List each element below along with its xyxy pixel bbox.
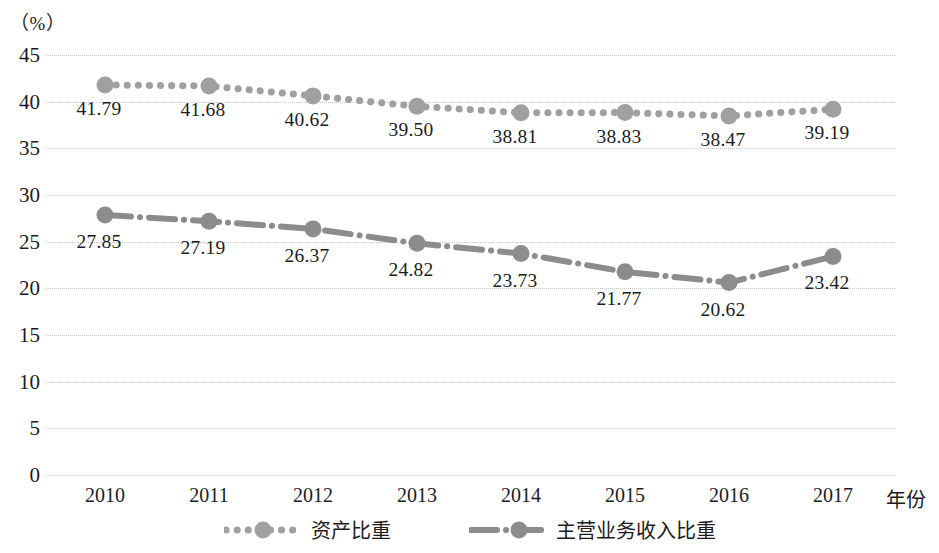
legend-swatch: [224, 520, 302, 540]
y-axis-tick: 25: [0, 229, 40, 254]
data-point-marker: [617, 263, 634, 280]
data-point-marker: [97, 207, 114, 224]
legend-item-2[interactable]: 主营业务收入比重: [469, 515, 716, 544]
data-point-marker: [201, 213, 218, 230]
data-label: 20.62: [701, 299, 746, 321]
data-point-marker: [721, 107, 738, 124]
data-label: 41.79: [77, 98, 122, 120]
data-point-marker: [825, 101, 842, 118]
data-label: 27.19: [181, 237, 226, 259]
y-axis-tick: 35: [0, 136, 40, 161]
x-axis-title: 年份: [886, 484, 926, 513]
data-point-marker: [513, 245, 530, 262]
y-axis-unit-label: （%）: [10, 8, 65, 35]
data-label: 38.83: [597, 126, 642, 148]
legend-item-1[interactable]: 资产比重: [224, 515, 391, 544]
chart-container: （%） 051015202530354045 41.7941.6840.6239…: [0, 0, 939, 553]
series-lines: [46, 55, 895, 475]
data-label: 24.82: [389, 259, 434, 281]
data-point-marker: [201, 77, 218, 94]
x-axis-tick: 2011: [189, 484, 228, 507]
x-axis-tick: 2016: [709, 484, 749, 507]
data-point-marker: [409, 98, 426, 115]
data-label: 21.77: [597, 288, 642, 310]
plot-area: 41.7941.6840.6239.5038.8138.8338.4739.19…: [46, 55, 895, 475]
legend-swatch: [469, 520, 547, 540]
data-label: 41.68: [181, 99, 226, 121]
x-axis-tick: 2014: [501, 484, 541, 507]
data-point-marker: [825, 248, 842, 265]
x-axis-tick: 2010: [85, 484, 125, 507]
x-axis-tick: 2017: [813, 484, 853, 507]
legend-label: 主营业务收入比重: [556, 515, 716, 544]
data-label: 38.47: [701, 129, 746, 151]
x-axis-tick: 2012: [293, 484, 333, 507]
data-point-marker: [617, 104, 634, 121]
x-axis-tick: 2013: [397, 484, 437, 507]
data-label: 23.73: [493, 270, 538, 292]
y-axis-tick: 15: [0, 323, 40, 348]
data-point-marker: [305, 220, 322, 237]
data-point-marker: [721, 274, 738, 291]
chart-legend: 资产比重主营业务收入比重: [0, 515, 939, 544]
x-axis-tick: 2015: [605, 484, 645, 507]
data-label: 40.62: [285, 109, 330, 131]
data-label: 38.81: [493, 126, 538, 148]
y-axis-tick: 0: [0, 463, 40, 488]
data-point-marker: [305, 87, 322, 104]
y-axis-tick: 10: [0, 369, 40, 394]
data-label: 26.37: [285, 245, 330, 267]
legend-label: 资产比重: [311, 515, 391, 544]
gridline: [46, 475, 895, 476]
y-axis-tick: 30: [0, 183, 40, 208]
data-label: 39.19: [805, 122, 850, 144]
data-label: 23.42: [805, 272, 850, 294]
data-label: 39.50: [389, 119, 434, 141]
y-axis-tick: 20: [0, 276, 40, 301]
y-axis-tick: 45: [0, 43, 40, 68]
data-point-marker: [513, 104, 530, 121]
data-label: 27.85: [77, 231, 122, 253]
data-point-marker: [409, 235, 426, 252]
data-point-marker: [97, 76, 114, 93]
y-axis-tick: 40: [0, 89, 40, 114]
y-axis-tick: 5: [0, 416, 40, 441]
